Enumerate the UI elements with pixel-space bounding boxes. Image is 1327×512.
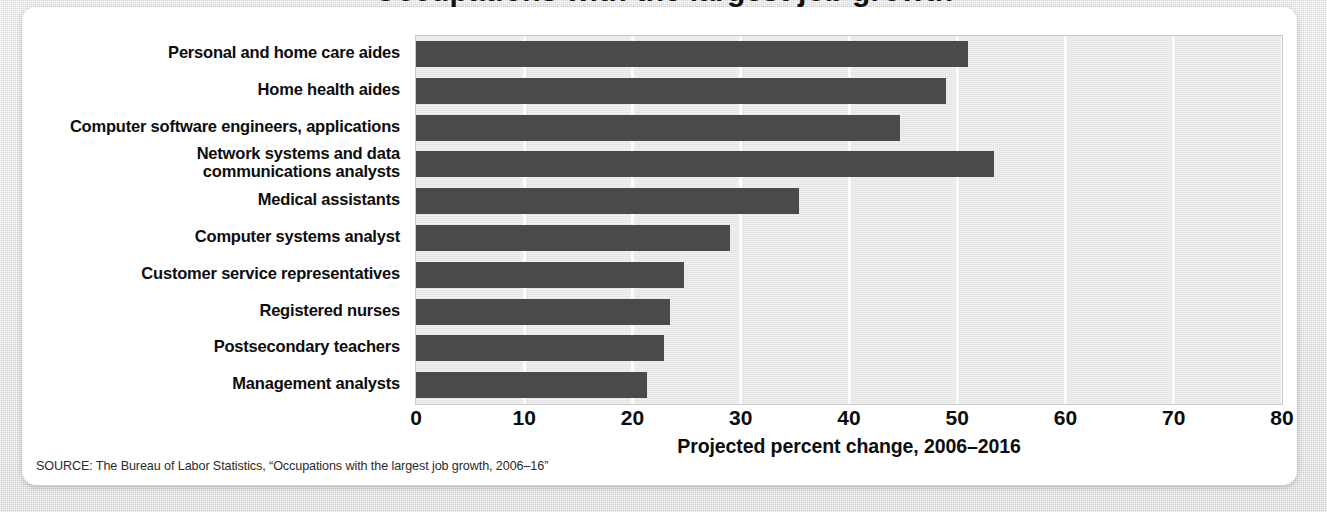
bar <box>416 188 799 214</box>
bar-row <box>416 188 1282 214</box>
category-label-line: communications analysts <box>20 163 400 181</box>
category-label: Network systems and datacommunications a… <box>20 145 400 181</box>
category-label-column: Personal and home care aidesHome health … <box>22 35 408 403</box>
category-label-line: Management analysts <box>20 375 400 393</box>
bar-row <box>416 151 1282 177</box>
x-axis-ticks: 01020304050607080 <box>415 406 1283 434</box>
bar-row <box>416 41 1282 67</box>
x-tick-label-50: 50 <box>946 406 969 430</box>
category-label-line: Registered nurses <box>20 302 400 320</box>
category-label: Personal and home care aides <box>20 44 400 62</box>
category-label: Medical assistants <box>20 191 400 209</box>
category-label: Home health aides <box>20 81 400 99</box>
category-label-line: Medical assistants <box>20 191 400 209</box>
x-axis-label: Projected percent change, 2006–2016 <box>415 435 1283 458</box>
x-tick-label-20: 20 <box>621 406 644 430</box>
x-tick-label-40: 40 <box>837 406 860 430</box>
bar <box>416 262 684 288</box>
category-label: Postsecondary teachers <box>20 338 400 356</box>
x-tick-label-30: 30 <box>729 406 752 430</box>
bar <box>416 372 647 398</box>
plot-area <box>415 35 1283 405</box>
x-tick-label-70: 70 <box>1162 406 1185 430</box>
source-note: SOURCE: The Bureau of Labor Statistics, … <box>36 459 548 473</box>
bar <box>416 41 968 67</box>
category-label: Registered nurses <box>20 302 400 320</box>
bar <box>416 151 994 177</box>
bar-row <box>416 115 1282 141</box>
bar-row <box>416 225 1282 251</box>
bar <box>416 335 664 361</box>
bar <box>416 225 730 251</box>
bar-row <box>416 262 1282 288</box>
x-tick-label-80: 80 <box>1270 406 1293 430</box>
x-tick-label-10: 10 <box>513 406 536 430</box>
bar <box>416 115 900 141</box>
bar <box>416 299 670 325</box>
bar-row <box>416 78 1282 104</box>
x-tick-label-60: 60 <box>1054 406 1077 430</box>
category-label-line: Home health aides <box>20 81 400 99</box>
category-label-line: Customer service representatives <box>20 265 400 283</box>
x-tick-label-0: 0 <box>410 406 422 430</box>
bar-row <box>416 372 1282 398</box>
category-label-line: Postsecondary teachers <box>20 338 400 356</box>
bar-chart: Personal and home care aidesHome health … <box>22 7 1297 485</box>
category-label: Customer service representatives <box>20 265 400 283</box>
category-label-line: Personal and home care aides <box>20 44 400 62</box>
category-label-line: Network systems and data <box>20 145 400 163</box>
bar-row <box>416 335 1282 361</box>
bar-row <box>416 299 1282 325</box>
bar <box>416 78 946 104</box>
chart-card: Personal and home care aidesHome health … <box>22 7 1297 485</box>
category-label-line: Computer software engineers, application… <box>20 118 400 136</box>
category-label: Computer software engineers, application… <box>20 118 400 136</box>
category-label: Computer systems analyst <box>20 228 400 246</box>
category-label-line: Computer systems analyst <box>20 228 400 246</box>
category-label: Management analysts <box>20 375 400 393</box>
